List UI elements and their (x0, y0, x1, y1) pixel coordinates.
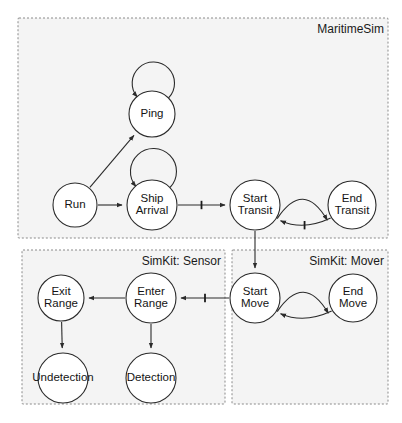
node-label: Enter (137, 285, 165, 297)
node-label: Move (241, 297, 269, 309)
node-detection[interactable]: Detection (126, 353, 176, 403)
node-label: Range (134, 297, 168, 309)
node-label: Arrival (136, 204, 169, 216)
node-ship_arrival[interactable]: ShipArrival (127, 180, 177, 230)
package-label: SimKit: Sensor (142, 254, 221, 268)
node-label: Undetection (32, 371, 93, 383)
edge-path (62, 322, 63, 348)
package-label: MaritimeSim (317, 22, 384, 36)
node-label: Ping (140, 107, 163, 119)
node-enter_range[interactable]: EnterRange (126, 273, 176, 323)
node-label: Exit (51, 285, 71, 297)
node-label: End (342, 192, 362, 204)
node-ping[interactable]: Ping (129, 91, 175, 137)
node-label: Transit (238, 204, 274, 216)
node-label: Start (243, 192, 268, 204)
node-label: Run (64, 198, 85, 210)
node-label: Ship (140, 192, 163, 204)
node-end_move[interactable]: EndMove (329, 274, 377, 322)
node-run[interactable]: Run (53, 183, 97, 227)
node-label: Start (243, 285, 268, 297)
node-label: Transit (335, 204, 371, 216)
node-label: End (343, 285, 363, 297)
event-graph-diagram: MaritimeSimSimKit: SensorSimKit: Mover P… (0, 0, 402, 423)
node-label: Move (339, 297, 367, 309)
diagram-canvas: MaritimeSimSimKit: SensorSimKit: Mover P… (0, 0, 402, 423)
package-label: SimKit: Mover (309, 254, 384, 268)
node-label: Range (44, 297, 78, 309)
edge-exit_range-undetection (62, 322, 63, 348)
node-start_transit[interactable]: StartTransit (230, 180, 280, 230)
node-end_transit[interactable]: EndTransit (328, 181, 376, 229)
node-label: Detection (127, 371, 176, 383)
node-start_move[interactable]: StartMove (230, 273, 280, 323)
node-exit_range[interactable]: ExitRange (38, 275, 84, 321)
